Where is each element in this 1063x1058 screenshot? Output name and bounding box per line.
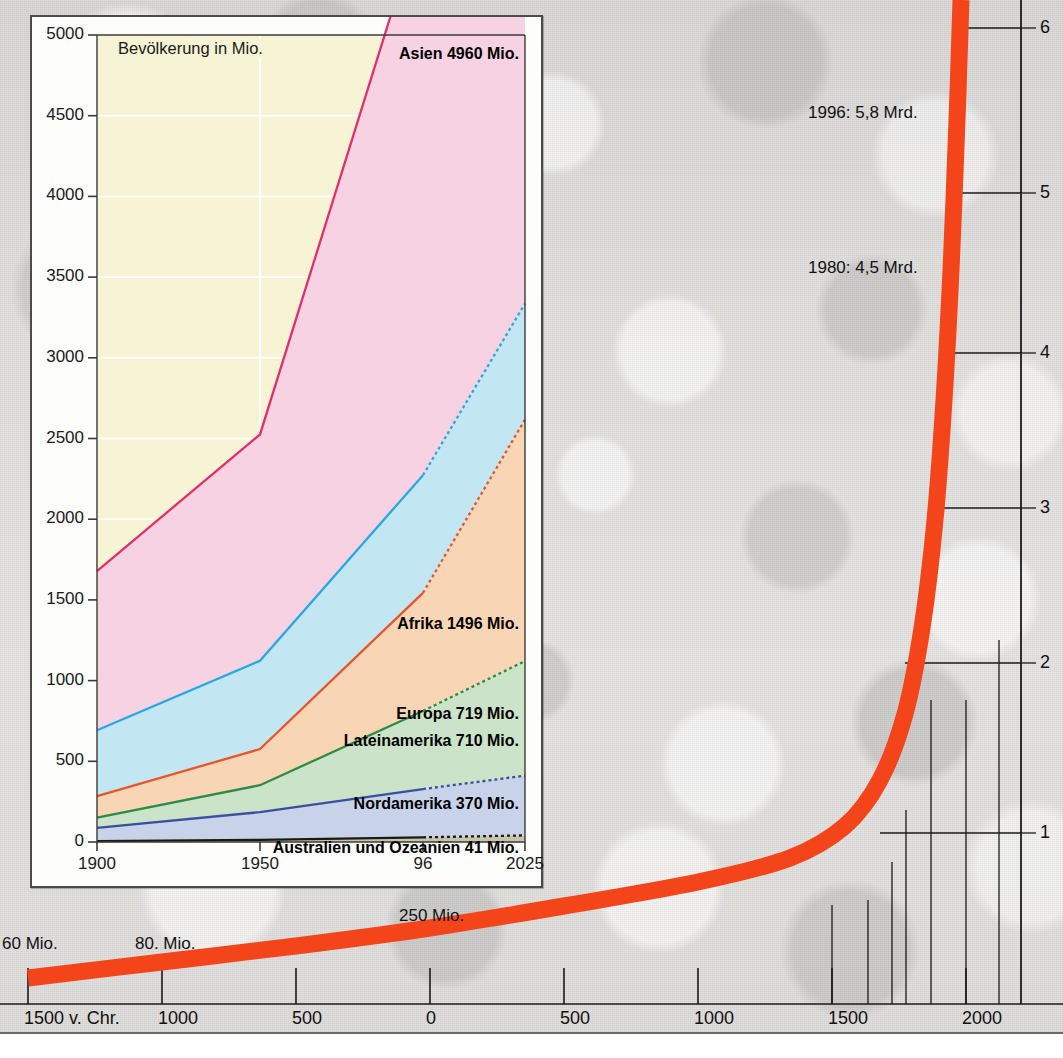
main-x-tick-label: 1000 xyxy=(694,1008,734,1029)
inset-x-tick-label: 1900 xyxy=(67,854,127,874)
inset-y-tick-label: 3500 xyxy=(24,266,84,286)
inset-series-label-afrika: Afrika 1496 Mio. xyxy=(32,615,519,633)
inset-y-tick-label: 1500 xyxy=(24,589,84,609)
main-annotation: 1980: 4,5 Mrd. xyxy=(808,258,918,278)
inset-y-tick-label: 2500 xyxy=(24,428,84,448)
inset-x-tick-label: 96 xyxy=(393,854,453,874)
main-y-tick-label: 2 xyxy=(1040,652,1050,673)
inset-y-tick-label: 3000 xyxy=(24,347,84,367)
main-gridlines xyxy=(832,0,1021,1004)
main-x-tick-label: 0 xyxy=(426,1008,436,1029)
inset-chart-svg xyxy=(32,17,545,890)
main-annotation: 60 Mio. xyxy=(2,934,58,954)
bottom-white-strip xyxy=(0,1032,1063,1058)
inset-x-tick-label: 2025 xyxy=(495,854,555,874)
main-y-tick-label: 4 xyxy=(1040,342,1050,363)
main-y-tick-label: 1 xyxy=(1040,822,1050,843)
inset-y-tick-label: 4000 xyxy=(24,185,84,205)
main-y-tick-label: 3 xyxy=(1040,497,1050,518)
inset-series-label-australien-und-ozeanien: Australien und Ozeanien 41 Mio. xyxy=(32,839,519,857)
main-annotation: 250 Mio. xyxy=(399,906,464,926)
inset-y-tick-label: 2000 xyxy=(24,508,84,528)
inset-y-tick-label: 1000 xyxy=(24,670,84,690)
main-annotation: 1996: 5,8 Mrd. xyxy=(808,103,918,123)
main-x-tick-label: 500 xyxy=(560,1008,590,1029)
main-x-tick-label: 1500 v. Chr. xyxy=(24,1008,120,1029)
main-y-tick-label: 5 xyxy=(1040,182,1050,203)
inset-series-label-europa: Europa 719 Mio. xyxy=(32,705,519,723)
inset-y-tick-label: 5000 xyxy=(24,24,84,44)
main-x-tick-label: 500 xyxy=(292,1008,322,1029)
inset-series-label-asien: Asien 4960 Mio. xyxy=(32,45,519,63)
inset-x-tick-label: 1950 xyxy=(230,854,290,874)
main-x-tick-label: 1000 xyxy=(158,1008,198,1029)
main-y-tick-label: 6 xyxy=(1040,17,1050,38)
main-annotation: 80. Mio. xyxy=(135,934,195,954)
inset-population-by-continent-chart: Bevölkerung in Mio. 05001000150020002500… xyxy=(30,15,543,888)
inset-series-label-lateinamerika: Lateinamerika 710 Mio. xyxy=(32,732,519,750)
main-x-tick-label: 2000 xyxy=(962,1008,1002,1029)
bottom-border-rule xyxy=(0,1032,1063,1034)
main-x-tick-label: 1500 xyxy=(828,1008,868,1029)
inset-y-tick-label: 500 xyxy=(24,750,84,770)
inset-y-tick-label: 4500 xyxy=(24,105,84,125)
infographic-world-population: 60 Mio.80. Mio.250 Mio.1980: 4,5 Mrd.199… xyxy=(0,0,1063,1058)
inset-series-label-nordamerika: Nordamerika 370 Mio. xyxy=(32,795,519,813)
